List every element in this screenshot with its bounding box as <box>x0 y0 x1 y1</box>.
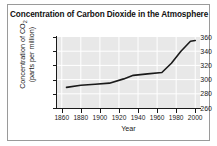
chart-title: Concentration of Carbon Dioxide in the A… <box>10 10 207 20</box>
x-axis-tick <box>119 109 120 113</box>
y-axis-tick <box>53 37 57 38</box>
y-axis-tick-label: 260 <box>165 105 217 112</box>
y-axis-tick <box>53 108 57 109</box>
x-axis-tick-label: 2000 <box>182 114 208 121</box>
y-axis-title-text: Concentration of CO <box>18 23 27 89</box>
y-axis-title-subscript: 2 <box>22 20 28 23</box>
y-axis-title: Concentration of CO2 (parts per million) <box>19 7 36 102</box>
y-axis-tick <box>53 80 57 81</box>
x-axis-tick <box>81 109 82 113</box>
y-axis-tick-label: 280 <box>165 90 217 97</box>
y-axis-tick-label: 360 <box>165 34 217 41</box>
y-axis-tick <box>53 51 57 52</box>
x-axis-tick <box>157 109 158 113</box>
chart-figure: Concentration of Carbon Dioxide in the A… <box>0 0 217 146</box>
y-axis-tick <box>53 94 57 95</box>
y-axis-title-line2: (parts per million) <box>28 7 37 102</box>
x-axis-tick <box>100 109 101 113</box>
y-axis-tick <box>53 65 57 66</box>
y-axis-tick-label: 320 <box>165 62 217 69</box>
y-axis-line <box>56 36 57 109</box>
y-axis-tick-label: 340 <box>165 48 217 55</box>
x-axis-title: Year <box>57 124 200 133</box>
x-axis-tick <box>138 109 139 113</box>
y-axis-tick-label: 300 <box>165 76 217 83</box>
x-axis-tick <box>62 109 63 113</box>
